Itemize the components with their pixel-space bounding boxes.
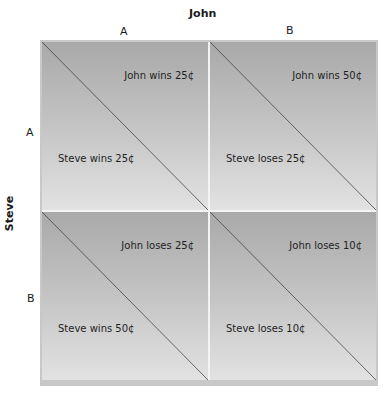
- row-strategy-b: B: [27, 292, 35, 305]
- column-player-title: John: [189, 7, 216, 20]
- steve-payoff: Steve wins 25¢: [58, 153, 134, 164]
- cell-steve-b-john-b: John loses 10¢ Steve loses 10¢: [210, 212, 376, 380]
- steve-payoff: Steve wins 50¢: [58, 323, 134, 334]
- john-payoff: John wins 50¢: [292, 70, 362, 81]
- column-strategy-a: A: [120, 25, 128, 38]
- payoff-matrix: John wins 25¢ Steve wins 25¢ John wins 5…: [40, 40, 378, 386]
- john-payoff: John loses 25¢: [121, 240, 194, 251]
- john-payoff: John loses 10¢: [289, 240, 362, 251]
- cell-steve-a-john-a: John wins 25¢ Steve wins 25¢: [42, 42, 208, 210]
- steve-payoff: Steve loses 10¢: [226, 323, 305, 334]
- row-strategy-a: A: [26, 126, 34, 139]
- diagonal-divider-icon: [42, 42, 208, 210]
- row-player-title: Steve: [3, 196, 16, 231]
- diagonal-divider-icon: [210, 212, 376, 380]
- cell-steve-a-john-b: John wins 50¢ Steve loses 25¢: [210, 42, 376, 210]
- diagonal-divider-icon: [210, 42, 376, 210]
- payoff-grid: John wins 25¢ Steve wins 25¢ John wins 5…: [42, 42, 376, 380]
- cell-steve-b-john-a: John loses 25¢ Steve wins 50¢: [42, 212, 208, 380]
- diagonal-divider-icon: [42, 212, 208, 380]
- john-payoff: John wins 25¢: [124, 70, 194, 81]
- column-strategy-b: B: [286, 24, 294, 37]
- steve-payoff: Steve loses 25¢: [226, 153, 305, 164]
